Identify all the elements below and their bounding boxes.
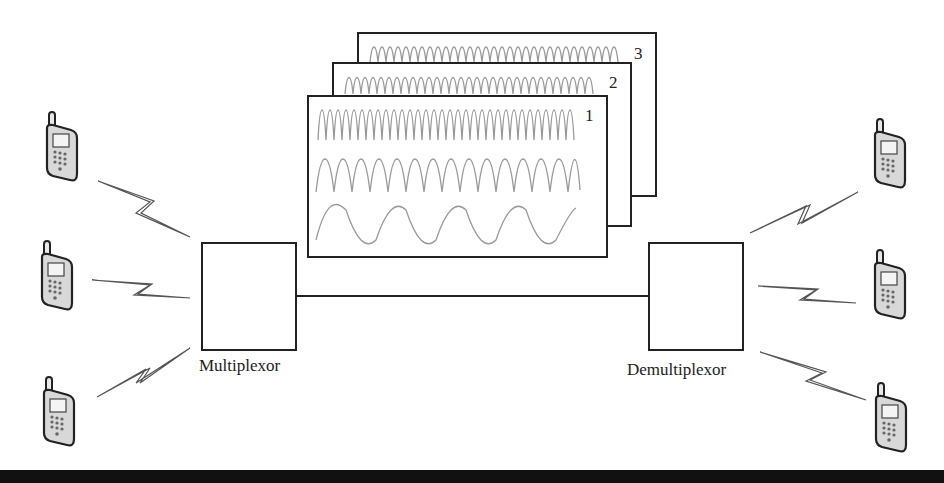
mobile-phone-icon bbox=[47, 112, 77, 180]
multiplexor-label: Multiplexor bbox=[199, 356, 280, 376]
signal-frame-1 bbox=[308, 96, 607, 257]
lightning-bolt-icon bbox=[750, 192, 858, 233]
frame-number-3: 3 bbox=[634, 44, 643, 64]
right-wireless-links bbox=[750, 192, 866, 400]
lightning-bolt-icon bbox=[97, 348, 190, 397]
bottom-divider bbox=[0, 470, 944, 483]
lightning-bolt-icon bbox=[92, 280, 190, 298]
mobile-phone-icon bbox=[875, 250, 905, 318]
mobile-phone-icon bbox=[875, 119, 905, 187]
lightning-bolt-icon bbox=[758, 286, 856, 303]
demultiplexor-label: Demultiplexor bbox=[627, 360, 726, 380]
lightning-bolt-icon bbox=[760, 352, 866, 400]
fdm-diagram: 3 2 1 Multiplexor Demultiplexor bbox=[0, 0, 944, 483]
demultiplexor-box bbox=[649, 243, 743, 350]
mobile-phone-icon bbox=[876, 383, 906, 451]
multiplexor-box bbox=[202, 243, 296, 350]
diagram-canvas bbox=[0, 0, 944, 483]
left-wireless-links bbox=[92, 181, 190, 397]
frame-number-2: 2 bbox=[609, 73, 618, 93]
mobile-phone-icon bbox=[44, 377, 74, 445]
mobile-phone-icon bbox=[42, 241, 72, 309]
lightning-bolt-icon bbox=[98, 181, 190, 237]
frame-number-1: 1 bbox=[585, 106, 594, 126]
